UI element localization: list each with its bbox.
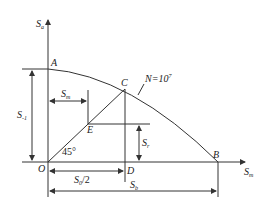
angle-label: 45°: [62, 146, 76, 157]
point-b-label: B: [213, 149, 219, 160]
x-axis-label: Sm: [244, 166, 254, 178]
y-axis-label: Sa: [36, 18, 44, 30]
point-a-label: A: [50, 57, 58, 68]
point-c-label: C: [121, 77, 128, 88]
s-minus1-dimension-label: S-1: [17, 109, 27, 121]
sb-dimension-label: Sb: [130, 179, 138, 191]
point-o-label: O: [38, 163, 45, 174]
curve-label-leader: [138, 84, 144, 95]
point-d-label: D: [126, 165, 135, 176]
sr-dimension-label: Sr: [142, 137, 150, 149]
point-e-label: E: [86, 124, 93, 135]
sm-dimension-label: Sm: [61, 88, 71, 100]
fatigue-diagram: Sa Sm N=107 Sm S-1 Sr S0/2 Sb A C B E O …: [0, 0, 257, 211]
curve-label: N=107: [144, 73, 172, 84]
s0-half-dimension-label: S0/2: [74, 174, 90, 186]
